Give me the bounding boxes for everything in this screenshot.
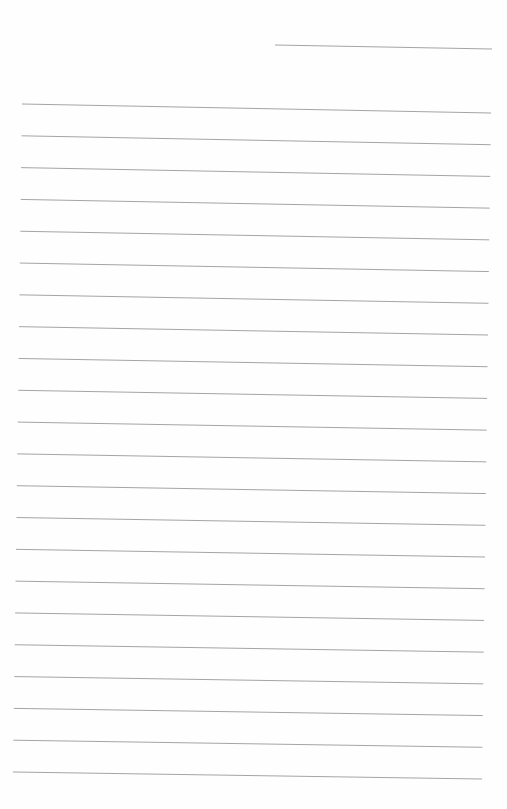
ruled-line	[19, 295, 488, 303]
ruled-line	[18, 422, 487, 430]
ruled-line	[16, 518, 485, 526]
ruled-line	[15, 645, 484, 652]
ruled-line	[19, 358, 488, 366]
ruled-line	[19, 327, 488, 335]
ruled-line	[21, 168, 490, 177]
ruled-line	[22, 136, 491, 145]
ruled-line	[21, 199, 490, 208]
ruled-line	[14, 677, 483, 684]
ruled-line	[15, 613, 484, 620]
ruled-line	[20, 231, 489, 240]
ruled-line	[17, 486, 486, 494]
ruled-line	[13, 740, 482, 747]
ruled-page	[0, 0, 507, 809]
ruled-line	[22, 104, 491, 113]
ruled-line	[18, 390, 487, 398]
ruled-lines	[0, 0, 507, 809]
ruled-line	[13, 772, 482, 779]
ruled-line	[16, 549, 485, 557]
header-line	[275, 45, 492, 49]
ruled-line	[14, 708, 483, 715]
ruled-line	[16, 581, 485, 589]
ruled-line	[20, 263, 489, 272]
ruled-line	[17, 454, 486, 462]
